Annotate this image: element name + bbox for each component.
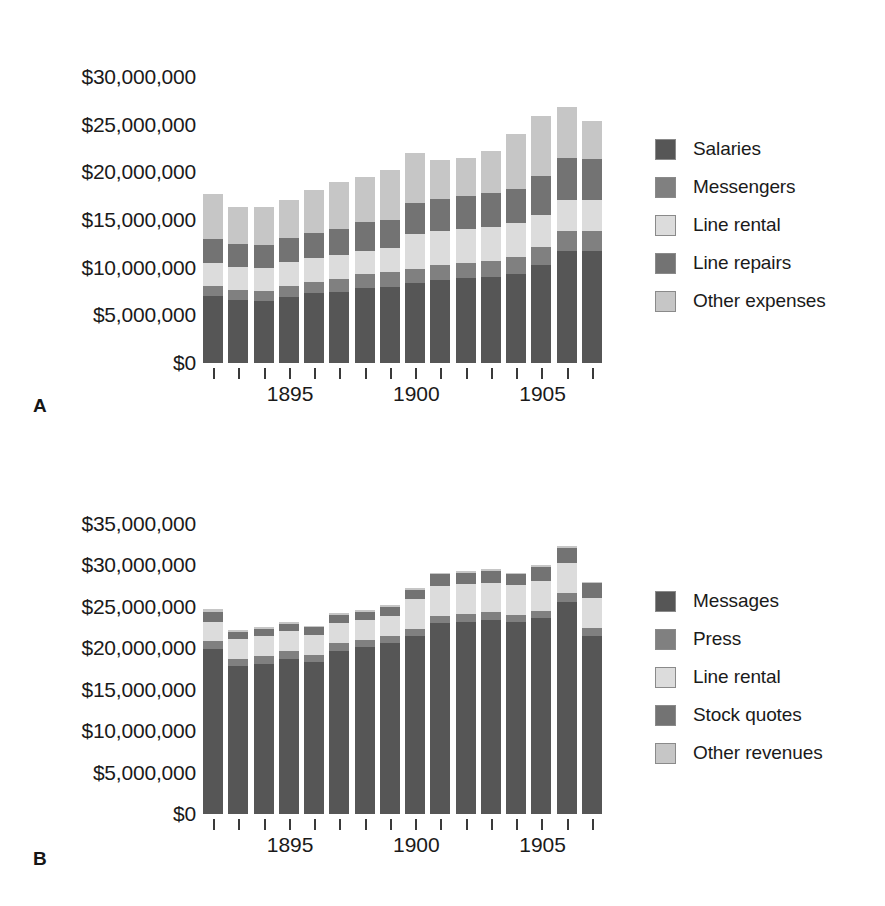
- x-axis-tick: [567, 368, 569, 379]
- stacked-bar[interactable]: [405, 588, 425, 814]
- stacked-bar[interactable]: [355, 177, 375, 363]
- legend-item[interactable]: Stock quotes: [655, 696, 823, 734]
- stacked-bar[interactable]: [329, 613, 349, 814]
- stacked-bar[interactable]: [430, 573, 450, 814]
- bar-segment: [506, 223, 526, 257]
- x-axis-year-label: 1895: [267, 833, 314, 857]
- stacked-bar[interactable]: [304, 626, 324, 814]
- bar-slot: [380, 507, 405, 814]
- legend-item[interactable]: Messages: [655, 582, 823, 620]
- bar-segment: [456, 196, 476, 228]
- bar-segment: [279, 659, 299, 814]
- bar-segment: [456, 263, 476, 278]
- legend-swatch-icon: [655, 705, 676, 726]
- legend-swatch-icon: [655, 743, 676, 764]
- stacked-bar[interactable]: [430, 160, 450, 363]
- bar-segment: [481, 193, 501, 226]
- stacked-bar[interactable]: [506, 573, 526, 814]
- bar-segment: [279, 262, 299, 286]
- bar-segment: [557, 231, 577, 251]
- bar-segment: [582, 628, 602, 636]
- bar-segment: [380, 607, 400, 616]
- stacked-bar[interactable]: [557, 107, 577, 363]
- stacked-bar[interactable]: [481, 569, 501, 814]
- stacked-bar[interactable]: [557, 546, 577, 814]
- bar-segment: [430, 623, 450, 814]
- x-axis-ticks-a: [203, 368, 607, 379]
- stacked-bar[interactable]: [254, 207, 274, 363]
- stacked-bar[interactable]: [582, 582, 602, 814]
- x-axis-tick: [415, 368, 417, 379]
- stacked-bar[interactable]: [456, 571, 476, 814]
- stacked-bar[interactable]: [329, 182, 349, 363]
- stacked-bar[interactable]: [203, 609, 223, 814]
- stacked-bar[interactable]: [380, 605, 400, 814]
- legend-item[interactable]: Line rental: [655, 658, 823, 696]
- legend-a: SalariesMessengersLine rentalLine repair…: [655, 130, 826, 320]
- bar-slot: [203, 507, 228, 814]
- bar-slot: [329, 58, 354, 363]
- stacked-bar[interactable]: [355, 610, 375, 814]
- legend-item[interactable]: Line rental: [655, 206, 826, 244]
- legend-item[interactable]: Other expenses: [655, 282, 826, 320]
- stacked-bar[interactable]: [531, 565, 551, 814]
- bar-slot: [430, 58, 455, 363]
- bar-segment: [430, 265, 450, 280]
- bar-segment: [304, 282, 324, 293]
- stacked-bar[interactable]: [304, 190, 324, 363]
- stacked-bar[interactable]: [254, 627, 274, 814]
- bar-slot: [430, 507, 455, 814]
- legend-item[interactable]: Other revenues: [655, 734, 823, 772]
- legend-item[interactable]: Line repairs: [655, 244, 826, 282]
- stacked-bar[interactable]: [405, 153, 425, 363]
- stacked-bar[interactable]: [228, 207, 248, 363]
- bar-segment: [582, 159, 602, 200]
- bar-segment: [456, 229, 476, 263]
- bar-segment: [329, 615, 349, 623]
- legend-item-label: Press: [693, 628, 741, 650]
- bar-segment: [355, 647, 375, 814]
- bar-segment: [380, 220, 400, 248]
- legend-item[interactable]: Press: [655, 620, 823, 658]
- legend-swatch-icon: [655, 177, 676, 198]
- bar-segment: [329, 255, 349, 279]
- legend-item[interactable]: Salaries: [655, 130, 826, 168]
- bar-segment: [228, 659, 248, 666]
- bar-segment: [329, 279, 349, 291]
- stacked-bar[interactable]: [380, 170, 400, 363]
- bar-segment: [355, 620, 375, 640]
- bar-segment: [228, 267, 248, 290]
- bar-segment: [228, 300, 248, 363]
- bar-segment: [531, 581, 551, 611]
- panel-b-letter: B: [33, 848, 47, 870]
- x-axis-tick: [390, 368, 392, 379]
- bar-segment: [456, 573, 476, 585]
- stacked-bar[interactable]: [203, 194, 223, 363]
- bar-segment: [304, 627, 324, 634]
- y-axis-tick-label: $0: [16, 803, 196, 824]
- bar-segment: [531, 116, 551, 176]
- x-axis-tick: [238, 819, 240, 830]
- stacked-bar[interactable]: [279, 200, 299, 363]
- legend-swatch-icon: [655, 139, 676, 160]
- bar-segment: [506, 585, 526, 615]
- bar-segment: [506, 622, 526, 814]
- legend-item[interactable]: Messengers: [655, 168, 826, 206]
- stacked-bar[interactable]: [582, 121, 602, 363]
- bar-segment: [582, 636, 602, 814]
- bar-segment: [203, 612, 223, 622]
- bar-segment: [405, 599, 425, 629]
- bar-segment: [203, 194, 223, 239]
- bar-segment: [481, 612, 501, 619]
- stacked-bar[interactable]: [279, 622, 299, 814]
- bar-segment: [557, 548, 577, 564]
- x-axis-year-label: 1900: [393, 833, 440, 857]
- stacked-bar[interactable]: [506, 134, 526, 363]
- bar-segment: [355, 288, 375, 363]
- stacked-bar[interactable]: [531, 116, 551, 363]
- bar-slot: [456, 507, 481, 814]
- bar-slot: [279, 507, 304, 814]
- stacked-bar[interactable]: [481, 151, 501, 363]
- stacked-bar[interactable]: [456, 158, 476, 363]
- stacked-bar[interactable]: [228, 630, 248, 814]
